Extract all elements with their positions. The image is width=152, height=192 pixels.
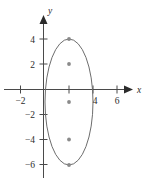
x-tick-label-6: 6 (115, 96, 120, 106)
data-point (67, 100, 71, 104)
x-tick-label-4: 4 (93, 96, 98, 106)
y-tick-label-neg6: −6 (25, 160, 35, 170)
coordinate-plot: −2 4 6 4 2 −2 −4 −6 x y (0, 0, 152, 192)
x-tick-label-neg2: −2 (15, 96, 25, 106)
graph-figure: −2 4 6 4 2 −2 −4 −6 x y (0, 0, 152, 192)
y-tick-label-4: 4 (30, 35, 35, 45)
y-axis-arrowhead (40, 15, 48, 24)
x-axis-arrowhead (124, 86, 133, 94)
data-point (67, 37, 71, 41)
y-axis-label: y (47, 6, 53, 16)
data-point (67, 138, 71, 142)
x-axis-label: x (136, 85, 142, 95)
data-point (67, 163, 71, 167)
data-point (67, 62, 71, 66)
y-tick-label-neg4: −4 (25, 135, 35, 145)
y-tick-label-neg2: −2 (25, 110, 35, 120)
y-tick-label-2: 2 (30, 60, 35, 70)
